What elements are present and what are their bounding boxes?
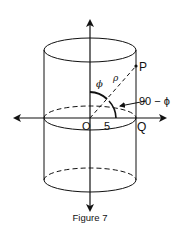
point-p-dot: [134, 64, 137, 67]
cylinder-diagram: P ϕ ρ 90 − ϕ O 5 Q Figure 7: [0, 0, 177, 227]
phi-angle-arc: [90, 92, 107, 99]
origin-label: O: [82, 120, 91, 132]
point-p-label: P: [139, 60, 147, 74]
rho-label: ρ: [112, 73, 119, 83]
radius-value-label: 5: [104, 120, 110, 132]
complement-angle-label: 90 − ϕ: [139, 95, 170, 107]
point-q-label: Q: [137, 120, 146, 134]
figure-caption: Figure 7: [73, 212, 108, 223]
complement-angle-arc: [109, 101, 116, 118]
phi-label: ϕ: [96, 78, 103, 89]
